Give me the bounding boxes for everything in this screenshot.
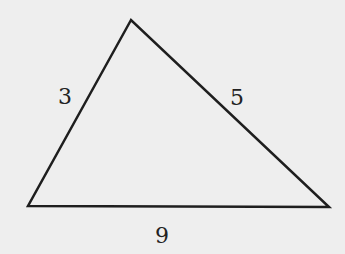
triangle-diagram: 3 5 9 (0, 0, 345, 254)
side-label-left: 3 (58, 84, 72, 109)
triangle-shape (28, 20, 329, 207)
side-label-bottom: 9 (155, 223, 169, 248)
side-label-right: 5 (230, 85, 244, 110)
